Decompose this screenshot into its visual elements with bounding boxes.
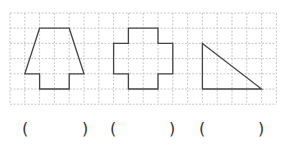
right-triangle-shape: [202, 43, 261, 89]
close-paren-3: ): [258, 119, 264, 139]
grid-figure: [0, 0, 285, 110]
close-paren-2: ): [169, 119, 175, 139]
grid-lines: [10, 13, 276, 104]
open-paren-1: (: [22, 119, 28, 139]
open-paren-3: (: [199, 119, 205, 139]
open-paren-2: (: [110, 119, 116, 139]
close-paren-1: ): [82, 119, 88, 139]
